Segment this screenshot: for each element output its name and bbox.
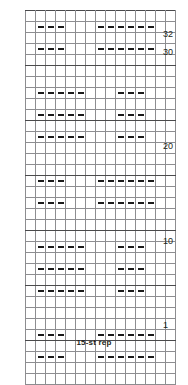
stitch-cell [126, 297, 136, 308]
stitch-cell [76, 33, 86, 44]
stitch-cell [66, 209, 76, 220]
stitch-cell [96, 55, 106, 66]
stitch-cell [36, 165, 46, 176]
stitch-cell [86, 209, 96, 220]
stitch-cell [146, 231, 156, 242]
stitch-row [26, 99, 176, 110]
stitch-cell [86, 363, 96, 374]
stitch-cell [26, 176, 36, 187]
stitch-cell [96, 110, 106, 121]
stitch-cell [146, 275, 156, 286]
stitch-cell [126, 176, 136, 187]
stitch-cell [56, 374, 66, 385]
stitch-cell [106, 308, 116, 319]
stitch-cell [126, 154, 136, 165]
stitch-cell [46, 154, 56, 165]
stitch-cell [86, 264, 96, 275]
stitch-cell [76, 176, 86, 187]
stitch-cell [116, 187, 126, 198]
stitch-cell [46, 297, 56, 308]
stitch-cell [76, 154, 86, 165]
stitch-cell [56, 66, 66, 77]
stitch-cell [96, 22, 106, 33]
stitch-cell [66, 88, 76, 99]
row-number-label: 32 [163, 29, 173, 39]
stitch-cell [96, 88, 106, 99]
stitch-cell [136, 66, 146, 77]
stitch-cell [126, 165, 136, 176]
stitch-cell [106, 55, 116, 66]
stitch-cell [76, 242, 86, 253]
stitch-cell [56, 231, 66, 242]
stitch-cell [76, 88, 86, 99]
stitch-cell [56, 22, 66, 33]
stitch-cell [46, 143, 56, 154]
stitch-row [26, 286, 176, 297]
stitch-cell [46, 22, 56, 33]
stitch-cell [106, 121, 116, 132]
stitch-cell [76, 374, 86, 385]
stitch-cell [146, 132, 156, 143]
stitch-cell [106, 165, 116, 176]
stitch-cell [56, 55, 66, 66]
stitch-cell [46, 209, 56, 220]
stitch-cell [116, 143, 126, 154]
stitch-cell [66, 33, 76, 44]
stitch-cell [96, 374, 106, 385]
stitch-row [26, 132, 176, 143]
stitch-cell [66, 22, 76, 33]
stitch-cell [116, 374, 126, 385]
stitch-cell [26, 286, 36, 297]
stitch-cell [116, 242, 126, 253]
stitch-cell [146, 55, 156, 66]
stitch-cell [56, 33, 66, 44]
stitch-row [26, 231, 176, 242]
stitch-cell [56, 110, 66, 121]
stitch-cell [106, 220, 116, 231]
stitch-cell [96, 231, 106, 242]
stitch-cell [66, 220, 76, 231]
stitch-cell [116, 22, 126, 33]
stitch-cell [146, 374, 156, 385]
stitch-cell [136, 220, 146, 231]
stitch-cell [26, 154, 36, 165]
stitch-cell [86, 198, 96, 209]
stitch-row [26, 154, 176, 165]
stitch-cell [66, 275, 76, 286]
stitch-cell [116, 88, 126, 99]
stitch-cell [86, 275, 96, 286]
stitch-cell [36, 154, 46, 165]
stitch-grid-container [25, 10, 160, 330]
stitch-cell [136, 209, 146, 220]
stitch-cell [36, 121, 46, 132]
stitch-cell [116, 55, 126, 66]
stitch-cell [56, 308, 66, 319]
stitch-cell [66, 231, 76, 242]
stitch-cell [76, 264, 86, 275]
stitch-cell [86, 66, 96, 77]
stitch-cell [66, 253, 76, 264]
stitch-cell [26, 11, 36, 22]
stitch-cell [126, 132, 136, 143]
stitch-cell [146, 99, 156, 110]
stitch-cell [46, 308, 56, 319]
stitch-cell [146, 33, 156, 44]
stitch-grid-body [26, 11, 176, 385]
stitch-cell [136, 132, 146, 143]
stitch-row [26, 209, 176, 220]
stitch-cell [146, 154, 156, 165]
stitch-cell [146, 176, 156, 187]
stitch-row [26, 110, 176, 121]
stitch-cell [36, 33, 46, 44]
stitch-cell [96, 154, 106, 165]
stitch-row [26, 88, 176, 99]
stitch-cell [76, 231, 86, 242]
stitch-cell [56, 132, 66, 143]
stitch-cell [26, 132, 36, 143]
stitch-cell [106, 187, 116, 198]
stitch-cell [126, 231, 136, 242]
stitch-cell [86, 22, 96, 33]
stitch-cell [76, 22, 86, 33]
stitch-cell [136, 143, 146, 154]
